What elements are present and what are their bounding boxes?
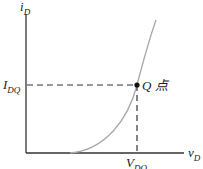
x-axis-label: vD xyxy=(188,146,200,163)
q-point-label: Q 点 xyxy=(142,79,168,92)
q-point-marker xyxy=(134,82,139,87)
diode-iv-plot xyxy=(0,0,203,169)
idq-label: IDQ xyxy=(3,78,20,95)
y-axis-label: iD xyxy=(20,0,30,17)
vdq-label: VDQ xyxy=(126,156,147,169)
